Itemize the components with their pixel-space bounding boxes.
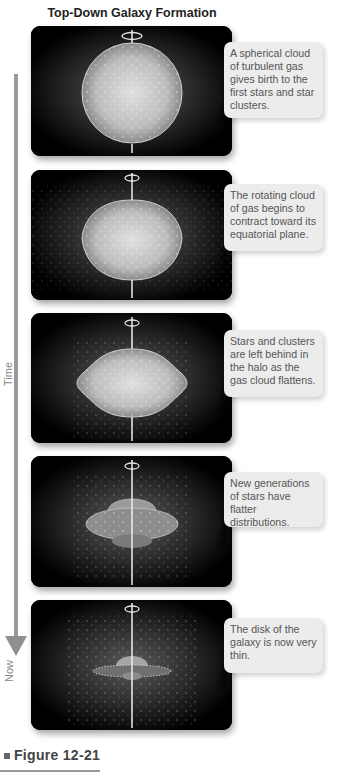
stage-4-panel xyxy=(31,456,232,587)
time-axis-line xyxy=(14,74,18,640)
thin-disk-illustration xyxy=(31,600,232,730)
stage-3-callout: Stars and clusters are left behind in th… xyxy=(224,330,323,397)
figure-caption-label: Figure 12-21 xyxy=(14,747,100,763)
flattened-disk-illustration xyxy=(31,456,232,587)
caption-underline xyxy=(0,770,100,772)
stage-1-callout: A spherical cloud of turbulent gas gives… xyxy=(224,42,323,118)
flattening-cloud-illustration xyxy=(31,313,232,443)
stage-5-callout: The disk of the galaxy is now very thin. xyxy=(224,618,323,673)
stage-5-panel xyxy=(31,600,232,730)
figure-title: Top-Down Galaxy Formation xyxy=(30,6,234,20)
time-label: Time xyxy=(2,362,14,386)
contracting-cloud-illustration xyxy=(31,170,232,300)
stage-2-panel xyxy=(31,170,232,300)
spherical-cloud-illustration xyxy=(31,26,232,156)
figure-caption: Figure 12-21 xyxy=(4,747,100,763)
down-arrow-icon xyxy=(5,636,27,656)
stage-1-panel xyxy=(31,26,232,156)
stage-3-panel xyxy=(31,313,232,443)
stage-2-callout: The rotating cloud of gas begins to cont… xyxy=(224,184,323,251)
now-label: Now xyxy=(3,660,15,682)
bullet-square-icon xyxy=(4,753,10,759)
stage-4-callout: New generations of stars have flatter di… xyxy=(224,472,323,527)
